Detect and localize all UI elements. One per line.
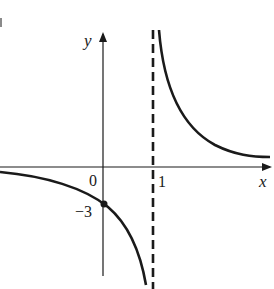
y-intercept-label: −3 xyxy=(75,203,92,220)
curve-left-branch xyxy=(0,172,146,285)
corner-mark xyxy=(0,18,2,27)
hyperbola-graph: y x 0 1 −3 xyxy=(0,0,274,289)
x-tick-label: 1 xyxy=(158,173,166,190)
y-axis-label: y xyxy=(82,31,92,50)
y-intercept-point xyxy=(101,201,108,208)
origin-label: 0 xyxy=(89,172,97,189)
x-axis-label: x xyxy=(258,172,267,191)
curve-right-branch xyxy=(159,30,270,157)
